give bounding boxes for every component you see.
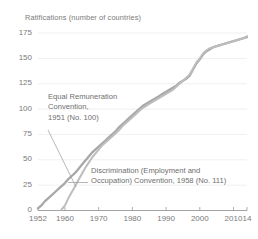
x-tick-label: 1990 — [148, 214, 184, 223]
chart-plot-area — [0, 0, 258, 239]
y-tick-label: 25 — [8, 180, 32, 189]
y-tick-label: 175 — [8, 28, 32, 37]
equal-remuneration-annotation: Equal RemunerationConvention,1951 (No. 1… — [48, 92, 117, 123]
y-tick-label: 50 — [8, 154, 32, 163]
ratifications-line-chart: Ratifications (number of countries) 0255… — [0, 0, 258, 239]
annotation-line: Convention, — [48, 102, 117, 112]
annotation-line: Occupation) Convention, 1958 (No. 111) — [91, 176, 226, 186]
x-tick-label: 1970 — [81, 214, 117, 223]
y-tick-label: 125 — [8, 78, 32, 87]
annotation-line: 1951 (No. 100) — [48, 113, 117, 123]
x-tick-label: 1960 — [47, 214, 83, 223]
x-axis-ticks — [38, 207, 247, 211]
x-tick-label: 1980 — [114, 214, 150, 223]
y-tick-label: 150 — [8, 53, 32, 62]
y-tick-label: 100 — [8, 104, 32, 113]
x-tick-label: 14 — [229, 214, 258, 223]
y-tick-label: 0 — [8, 205, 32, 214]
leader-line-equal-remuneration — [48, 130, 76, 187]
annotation-line: Equal Remuneration — [48, 92, 117, 102]
x-tick-label: 2000 — [182, 214, 218, 223]
annotation-line: Discrimination (Employment and — [91, 166, 226, 176]
y-tick-label: 75 — [8, 129, 32, 138]
discrimination-annotation: Discrimination (Employment andOccupation… — [91, 166, 226, 187]
